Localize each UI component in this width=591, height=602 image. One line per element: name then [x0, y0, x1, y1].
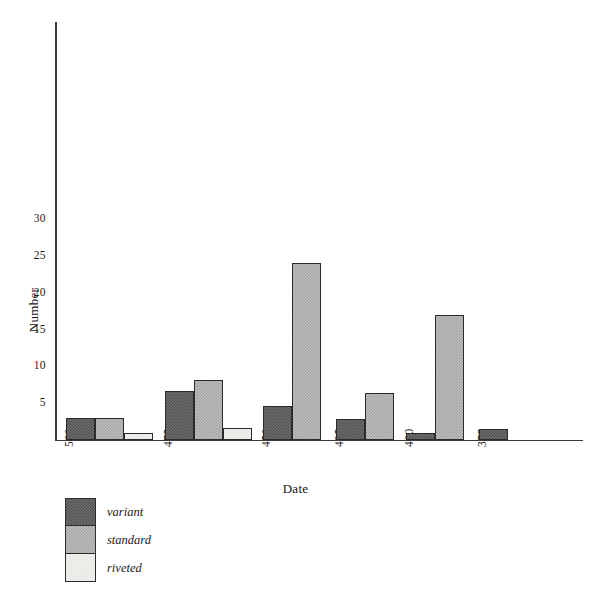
y-tick-label: 30 [0, 213, 46, 225]
x-tick-label: 400 [403, 403, 415, 447]
bar-variant-475 [165, 391, 194, 440]
chart-legend: variantstandardriveted [65, 498, 265, 582]
legend-item-standard: standard [65, 526, 265, 554]
y-tick-label: 25 [0, 250, 46, 262]
y-axis-title: Number [26, 265, 42, 355]
legend-label-riveted: riveted [107, 561, 142, 576]
bar-standard-475 [194, 380, 223, 440]
bar-variant-500 [66, 418, 95, 440]
legend-swatch-riveted [65, 554, 96, 582]
bar-standard-400 [435, 315, 464, 440]
legend-swatch-standard [65, 526, 96, 554]
y-tick-label: 5 [0, 397, 46, 409]
legend-label-standard: standard [107, 533, 151, 548]
bar-standard-500 [95, 418, 124, 440]
bar-variant-400 [406, 433, 435, 440]
bar-standard-450 [292, 263, 321, 440]
legend-label-variant: variant [107, 505, 143, 520]
bar-standard-425 [365, 393, 394, 440]
y-axis-line [55, 22, 57, 441]
bar-variant-450 [263, 406, 292, 440]
bar-riveted-475 [223, 428, 252, 440]
x-tick-label: 375 [476, 403, 488, 447]
bar-riveted-500 [124, 433, 153, 440]
legend-swatch-variant [65, 498, 96, 526]
bar-chart-figure: 51015202530 Number 500475450425400375 Da… [0, 0, 591, 602]
legend-item-variant: variant [65, 498, 265, 526]
y-tick-label: 10 [0, 360, 46, 372]
legend-item-riveted: riveted [65, 554, 265, 582]
bar-variant-425 [336, 419, 365, 440]
x-axis-title: Date [0, 481, 591, 497]
bar-variant-375 [479, 429, 508, 440]
